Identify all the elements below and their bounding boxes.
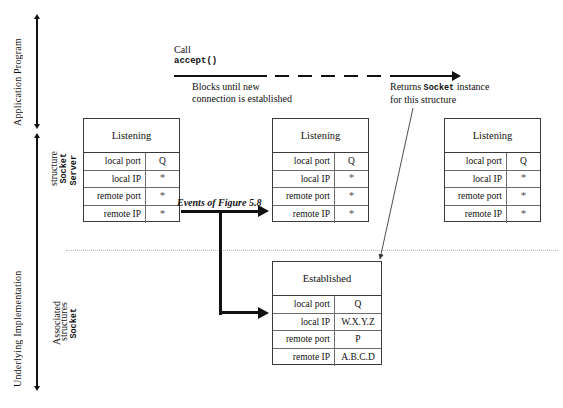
layer-divider	[66, 250, 558, 251]
socket-title: Established	[273, 262, 381, 296]
events-arrow-bottom-head-icon	[258, 307, 269, 319]
table-row: remote port *	[84, 188, 179, 206]
call-label: Call	[174, 44, 217, 56]
row-value: *	[507, 188, 540, 205]
returns-socket-pointer-line	[380, 108, 413, 259]
timeline-dash-1	[275, 75, 289, 78]
server-socket-structure-word-socket: Socket	[59, 153, 69, 187]
timeline-dash-2	[298, 75, 312, 78]
table-row: remote IP *	[84, 206, 179, 224]
row-key: local port	[445, 153, 507, 170]
associated-word-socket: Socket	[69, 308, 79, 339]
returns-socket-word: Socket	[424, 83, 455, 93]
row-key: remote IP	[445, 206, 507, 224]
axis-label-underlying-implementation: Underlying Implementation	[12, 137, 23, 387]
timeline-dash-4	[344, 75, 358, 78]
table-row: local port Q	[84, 153, 179, 171]
socket-structure-listening-right: Listening local port Q local IP * remote…	[444, 118, 541, 222]
figure-canvas: Application Program Underlying Implement…	[0, 0, 563, 408]
timeline-solid-segment	[174, 75, 267, 78]
row-key: remote port	[445, 188, 507, 205]
row-value: Q	[335, 153, 368, 170]
implementation-axis-line	[36, 137, 37, 387]
timeline-dash-3	[321, 75, 335, 78]
blocks-note-line2: connection is established	[192, 93, 292, 105]
row-value: Q	[335, 296, 381, 313]
events-of-figure-label: Events of Figure 5.8	[177, 197, 261, 208]
socket-title: Listening	[84, 119, 179, 153]
row-key: local port	[84, 153, 146, 170]
row-key: remote port	[273, 188, 335, 205]
table-row: local IP *	[445, 171, 540, 189]
row-key: local port	[273, 153, 335, 170]
row-value: Q	[146, 153, 179, 170]
row-value: *	[146, 206, 179, 224]
table-row: local IP *	[273, 171, 368, 189]
table-row: local IP W.X.Y.Z	[273, 314, 381, 332]
returns-prefix: Returns	[390, 81, 424, 92]
table-row: remote IP A.B.C.D	[273, 349, 381, 367]
table-row: local port Q	[273, 296, 381, 314]
axis-label-application-program: Application Program	[12, 16, 23, 126]
row-value: A.B.C.D	[335, 349, 381, 367]
timeline-arrowhead-icon	[452, 71, 461, 81]
returns-note-line1: Returns Socket instance	[390, 81, 489, 94]
row-value: W.X.Y.Z	[335, 314, 381, 331]
row-value: *	[335, 188, 368, 205]
row-key: remote IP	[273, 349, 335, 367]
table-row: local port Q	[445, 153, 540, 171]
table-row: remote port *	[273, 188, 368, 206]
implementation-axis-bottom-arrow	[34, 386, 40, 391]
application-axis-line	[36, 18, 37, 125]
events-arrow-bottom-shaft	[219, 311, 261, 314]
row-key: remote port	[273, 331, 335, 348]
socket-structure-established: Established local port Q local IP W.X.Y.…	[272, 261, 382, 365]
table-row: local port Q	[273, 153, 368, 171]
table-row: remote port P	[273, 331, 381, 349]
row-key: remote IP	[273, 206, 335, 224]
server-socket-structure-word-structure: structure	[48, 151, 59, 189]
row-key: remote port	[84, 188, 146, 205]
table-row: local IP *	[84, 171, 179, 189]
socket-structure-listening-left: Listening local port Q local IP * remote…	[83, 118, 180, 222]
row-key: remote IP	[84, 206, 146, 224]
row-value: *	[507, 171, 540, 188]
row-key: local IP	[84, 171, 146, 188]
blocks-note: Blocks until new connection is establish…	[192, 81, 292, 105]
socket-title: Listening	[445, 119, 540, 153]
row-value: Q	[507, 153, 540, 170]
row-value: *	[146, 171, 179, 188]
accept-call-label: accept()	[174, 56, 217, 68]
row-key: local port	[273, 296, 335, 313]
row-value: *	[146, 188, 179, 205]
server-socket-structure-word-server: Server	[69, 155, 79, 186]
blocks-note-line1: Blocks until new	[192, 81, 292, 93]
table-row: remote IP *	[273, 206, 368, 224]
row-value: P	[335, 331, 381, 348]
socket-structure-listening-middle: Listening local port Q local IP * remote…	[272, 118, 369, 222]
row-key: local IP	[445, 171, 507, 188]
timeline-dash-5	[367, 75, 381, 78]
row-key: local IP	[273, 171, 335, 188]
row-key: local IP	[273, 314, 335, 331]
application-axis-bottom-arrow	[34, 124, 40, 129]
call-annotation: Call accept()	[174, 44, 217, 67]
timeline-solid-segment-2	[390, 75, 453, 78]
row-value: *	[335, 206, 368, 224]
row-value: *	[335, 171, 368, 188]
returns-note: Returns Socket instance for this structu…	[390, 81, 489, 106]
row-value: *	[507, 206, 540, 224]
returns-suffix: instance	[454, 81, 489, 92]
events-arrow-stem	[219, 210, 222, 315]
table-row: remote port *	[445, 188, 540, 206]
axis-label-server-socket-structure: Server Socket structure	[56, 118, 70, 222]
associated-word-structures: structures	[58, 302, 69, 344]
returns-note-line2: for this structure	[390, 94, 489, 106]
socket-title: Listening	[273, 119, 368, 153]
events-arrow-top-head-icon	[258, 205, 269, 217]
axis-label-associated-line2: Socket structures	[60, 268, 76, 378]
table-row: remote IP *	[445, 206, 540, 224]
